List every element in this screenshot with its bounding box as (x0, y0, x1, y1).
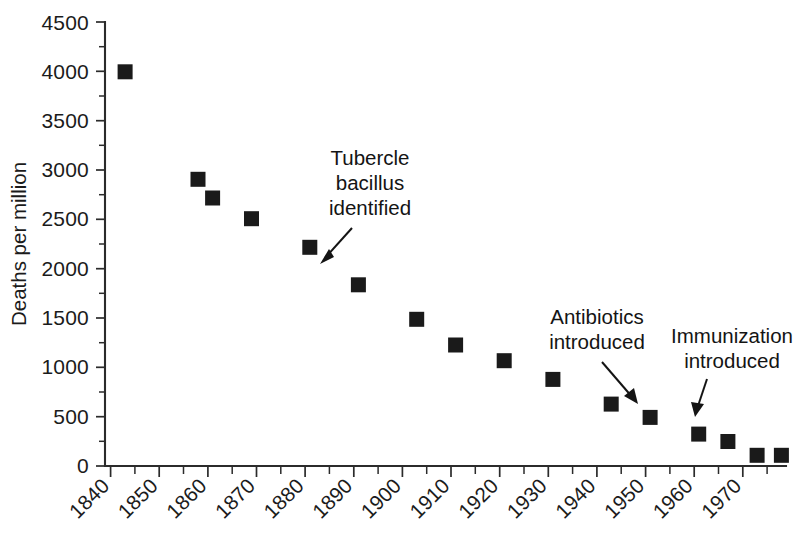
x-tick-label-1930: 1930 (502, 474, 551, 523)
data-point-1858 (205, 191, 220, 206)
x-tick-label-1970: 1970 (697, 474, 746, 523)
data-point-1975 (774, 448, 789, 463)
x-tick-label-1900: 1900 (356, 474, 405, 523)
x-tick-label-1910: 1910 (405, 474, 454, 523)
y-tick-label-4500: 4500 (41, 11, 89, 34)
x-tick-label-1950: 1950 (599, 474, 648, 523)
data-point-1970 (750, 448, 765, 463)
data-point-1918 (497, 353, 512, 368)
y-tick-label-1500: 1500 (41, 306, 89, 329)
y-tick-label-4000: 4000 (41, 60, 89, 83)
y-tick-label-0: 0 (77, 454, 89, 477)
x-axis-tick-labels: 1840 1850 1860 1870 1880 1890 1900 1910 … (64, 474, 745, 523)
data-point-1878 (302, 240, 317, 255)
y-axis-title: Deaths per million (7, 162, 30, 326)
y-tick-label-3500: 3500 (41, 109, 89, 132)
y-tick-label-500: 500 (53, 405, 89, 428)
x-tick-label-1960: 1960 (648, 474, 697, 523)
y-axis-ticks (96, 22, 105, 466)
annotation-immunization: Immunization introduced (671, 324, 793, 417)
data-point-1855 (191, 172, 206, 187)
x-tick-label-1870: 1870 (210, 474, 259, 523)
annotation-antibiotics: Antibiotics introduced (549, 305, 645, 404)
data-point-1948 (643, 410, 658, 425)
data-point-1908 (448, 338, 463, 353)
tuberculosis-mortality-figure: Deaths per million (0, 0, 809, 538)
data-point-1964 (720, 434, 735, 449)
data-point-1900 (409, 312, 424, 327)
data-point-1888 (351, 277, 366, 292)
annotation-immunization-line-1: Immunization (671, 324, 793, 347)
annotation-tubercle-bacillus: Tubercle bacillus identified (320, 146, 411, 264)
y-tick-label-3000: 3000 (41, 158, 89, 181)
x-tick-label-1860: 1860 (162, 474, 211, 523)
data-point-series (118, 64, 789, 463)
data-point-1928 (545, 372, 560, 387)
annotation-antibiotics-line-1: Antibiotics (550, 305, 643, 328)
x-tick-label-1880: 1880 (259, 474, 308, 523)
x-tick-label-1850: 1850 (113, 474, 162, 523)
data-point-1940 (604, 397, 619, 412)
y-tick-label-2500: 2500 (41, 207, 89, 230)
y-axis-tick-labels: 0 500 1000 1500 2000 2500 3000 3500 4000… (41, 11, 89, 477)
annotation-tubercle-line-1: Tubercle (331, 146, 410, 169)
annotation-antibiotics-line-2: introduced (549, 330, 645, 353)
annotation-tubercle-line-3: identified (329, 196, 411, 219)
data-point-1866 (244, 211, 259, 226)
annotation-immunization-arrow-head (691, 402, 704, 417)
data-point-1840 (118, 64, 133, 79)
annotation-immunization-line-2: introduced (684, 349, 780, 372)
x-tick-label-1840: 1840 (64, 474, 113, 523)
x-tick-label-1940: 1940 (551, 474, 600, 523)
annotation-tubercle-line-2: bacillus (336, 171, 404, 194)
y-tick-label-2000: 2000 (41, 257, 89, 280)
scatter-plot-svg: Deaths per million (0, 0, 809, 538)
data-point-1958 (691, 427, 706, 442)
chart-page: Deaths per million (0, 0, 809, 538)
y-tick-label-1000: 1000 (41, 355, 89, 378)
x-tick-label-1890: 1890 (308, 474, 357, 523)
x-tick-label-1920: 1920 (453, 474, 502, 523)
